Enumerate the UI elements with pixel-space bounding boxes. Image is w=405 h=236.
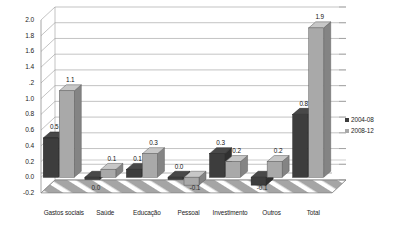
- bar-front-face: [43, 138, 58, 177]
- bar-front-face: [101, 169, 116, 177]
- bar-value-label: 0.8: [293, 100, 315, 107]
- bar-front-face: [126, 169, 141, 177]
- gridline: [41, 86, 346, 99]
- y-axis-tick-label: 1.6: [8, 47, 34, 54]
- bar-front-face: [293, 114, 308, 177]
- bar-front-face: [168, 177, 183, 179]
- bar-side-face: [324, 22, 331, 177]
- bar-value-label: 0.3: [210, 139, 232, 146]
- bar-value-label: 0.2: [267, 147, 289, 154]
- bar-series-2[interactable]: [59, 85, 81, 178]
- chart-legend: 2004-08 2008-12: [345, 114, 374, 136]
- bar-front-face: [210, 154, 225, 178]
- x-axis-category-label: Total: [282, 209, 344, 216]
- bar-value-label: 0.3: [142, 139, 164, 146]
- bar-value-label: 1.1: [59, 76, 81, 83]
- gridline: [41, 38, 346, 51]
- bar-series-2[interactable]: [226, 156, 248, 178]
- bar-value-label: 0.0: [168, 163, 190, 170]
- bar-front-face: [267, 162, 282, 178]
- legend-swatch-2008-12: [345, 129, 349, 133]
- bar-series-2[interactable]: [101, 163, 123, 177]
- bar-front-face: [59, 91, 74, 178]
- y-axis-tick-label: 0.6: [8, 126, 34, 133]
- gridline: [41, 54, 346, 67]
- bar-value-label: -0.1: [184, 184, 206, 191]
- bar-series-2[interactable]: [267, 156, 289, 178]
- y-axis-tick-label: .2: [8, 79, 34, 86]
- y-axis-tick-label: 1.0: [8, 95, 34, 102]
- gridline: [41, 23, 346, 36]
- gridline: [41, 70, 346, 83]
- legend-swatch-2004-08: [345, 118, 349, 122]
- bar-front-face: [226, 162, 241, 178]
- bar-value-label: 0.1: [126, 155, 148, 162]
- chart-container: 2.01.81.61.4.21.00.80.60.40.20.0-0.2 Gas…: [0, 0, 405, 236]
- legend-item-2008-12[interactable]: 2008-12: [345, 125, 374, 136]
- bar-value-label: 0.5: [43, 123, 65, 130]
- axis-ticks: [339, 7, 346, 180]
- gridline: [41, 7, 346, 20]
- bar-series-2[interactable]: [142, 148, 164, 178]
- bar-value-label: 0.2: [226, 147, 248, 154]
- legend-label-2004-08: 2004-08: [351, 115, 374, 124]
- y-axis-tick-label: 0.4: [8, 142, 34, 149]
- bar-front-face: [85, 177, 100, 179]
- bar-value-label: 0.0: [85, 184, 107, 191]
- bar-value-label: 1.9: [309, 13, 331, 20]
- y-axis-tick-label: 0.8: [8, 110, 34, 117]
- bars-layer: [43, 22, 330, 185]
- y-axis-tick-label: 1.8: [8, 32, 34, 39]
- y-axis-tick-label: -0.2: [8, 189, 34, 196]
- y-axis-tick-label: 2.0: [8, 16, 34, 23]
- bar-value-label: 0.1: [101, 155, 123, 162]
- y-axis-tick-label: 0.2: [8, 158, 34, 165]
- legend-item-2004-08[interactable]: 2004-08: [345, 114, 374, 125]
- y-axis-tick-label: 1.4: [8, 63, 34, 70]
- bar-value-label: -0.1: [251, 184, 273, 191]
- legend-label-2008-12: 2008-12: [351, 126, 374, 135]
- bar-side-face: [74, 85, 81, 177]
- y-axis-tick-label: 0.0: [8, 173, 34, 180]
